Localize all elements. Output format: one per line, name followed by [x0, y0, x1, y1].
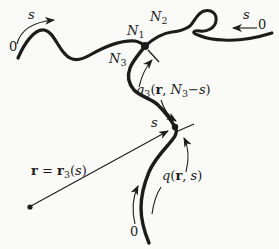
branch-tick	[148, 50, 159, 62]
label-arm1-origin-0: 0	[9, 40, 17, 53]
arm3-contour-arrow	[133, 186, 138, 224]
q3-comma: ,	[162, 82, 170, 97]
label-arm1-contour-s: s	[28, 8, 35, 21]
branch-point-dot	[141, 42, 149, 50]
label-n1: N1	[127, 24, 144, 37]
n3-sub: 3	[120, 57, 126, 68]
label-q-propagator: q(r, s)	[162, 169, 202, 182]
q3-minus: −	[188, 82, 199, 97]
label-position-vector: r = r3(s)	[31, 164, 87, 177]
label-n3: N3	[109, 52, 126, 65]
label-arm2-contour-s: s	[243, 8, 250, 21]
req-rhs-sub: 3	[64, 169, 70, 180]
q-arc-upper-arrow	[184, 138, 188, 172]
n1-base: N	[127, 23, 138, 38]
req-arg-s: s	[75, 163, 82, 178]
n3-base: N	[109, 51, 120, 66]
polymer-branch-diagram: s 0 N1 N2 N3 s 0 q3(r, N3−s) s r = r3(s)…	[0, 0, 279, 249]
q3-func-sub: 3	[144, 88, 150, 99]
req-equals: =	[38, 163, 57, 178]
req-close: )	[82, 163, 87, 178]
req-rhs: r	[57, 163, 64, 178]
req-lhs: r	[31, 163, 38, 178]
q3-arg-n: N	[171, 82, 182, 97]
n1-sub: 1	[138, 29, 144, 40]
label-q3-propagator: q3(r, N3−s)	[136, 83, 211, 96]
label-arm3-origin-0: 0	[130, 225, 138, 238]
q-arc-right	[152, 187, 161, 214]
label-arm2-origin-0: 0	[258, 18, 266, 31]
q3-close: )	[206, 82, 211, 97]
n2-sub: 2	[161, 15, 167, 26]
q3-arg-n-sub: 3	[182, 88, 188, 99]
point-s-tick	[178, 124, 194, 131]
q3-arg-s: s	[199, 82, 206, 97]
n2-base: N	[150, 9, 161, 24]
q-close: )	[197, 168, 202, 183]
label-n2: N2	[150, 10, 167, 23]
q-comma: ,	[182, 168, 190, 183]
segment-point-dot	[172, 124, 178, 130]
label-point-s: s	[151, 116, 158, 129]
